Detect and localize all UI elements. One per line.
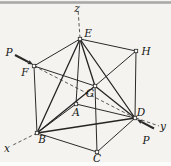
label-z: z [73, 2, 80, 14]
vertex-H [134, 49, 137, 52]
vertex-F [32, 64, 35, 67]
label-x: x [4, 142, 10, 154]
label-E: E [83, 27, 92, 39]
label-P-upper: P [4, 46, 13, 58]
label-H: H [140, 45, 151, 57]
label-A: A [71, 106, 80, 118]
label-P-lower: P [141, 134, 150, 146]
label-G: G [86, 87, 94, 99]
label-y: y [159, 120, 167, 132]
label-C: C [93, 152, 101, 164]
bottom-edge-strip [0, 162, 171, 166]
cube-force-diagram: zEHPFGADyPBxC [0, 0, 171, 166]
vertex-E [78, 37, 81, 40]
label-F: F [20, 66, 29, 78]
top-edge-strip [0, 1, 171, 4]
label-B: B [37, 133, 46, 145]
diagram-svg: zEHPFGADyPBxC [0, 0, 171, 166]
label-D: D [136, 106, 146, 118]
